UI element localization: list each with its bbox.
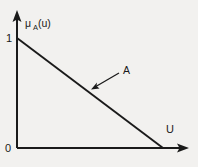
callout-pointer-arrowhead: [91, 83, 100, 90]
origin-label-0: 0: [5, 142, 11, 154]
chart-canvas: 1 0 U A μ A (u): [0, 0, 198, 167]
y-tick-label-1: 1: [6, 32, 12, 44]
series-annotation-label-A: A: [123, 64, 130, 76]
x-axis-label: U: [166, 123, 174, 135]
y-axis-label-mu: μ: [25, 17, 31, 29]
series-line-A: [17, 38, 163, 148]
y-axis-label-argument: (u): [38, 17, 51, 29]
callout-pointer-line: [95, 73, 119, 87]
y-axis-label-group: μ A (u): [25, 17, 51, 32]
membership-function-chart: 1 0 U A μ A (u): [0, 0, 198, 167]
